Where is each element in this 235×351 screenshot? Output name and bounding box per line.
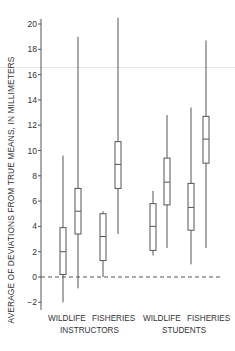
y-tick-label: 20 (28, 19, 38, 29)
y-tick-label: 6 (32, 196, 37, 206)
y-tick-label: 4 (32, 221, 37, 231)
interquartile-box (60, 228, 66, 275)
x-label-fisheries-students: FISHERIES (187, 314, 230, 323)
boxplot-chart: −202468101214161820 (0, 0, 235, 351)
x-label-wildlife-students: WILDLIFE (143, 314, 181, 323)
y-tick-label: 0 (32, 272, 37, 282)
y-axis-label: AVERAGE OF DEVIATIONS FROM TRUE MEANS, I… (6, 57, 16, 324)
group-label-students: STUDENTS (162, 326, 206, 335)
y-axis: −202468101214161820 (27, 19, 41, 310)
box-2 (75, 37, 81, 289)
y-tick-label: 10 (28, 146, 38, 156)
y-tick-label: 14 (28, 95, 38, 105)
interquartile-box (100, 214, 106, 261)
interquartile-box (203, 116, 209, 163)
y-tick-label: 18 (28, 44, 38, 54)
y-tick-label: 8 (32, 171, 37, 181)
box-4 (115, 18, 121, 234)
group-label-instructors: INSTRUCTORS (60, 326, 119, 335)
box-5 (150, 191, 156, 256)
interquartile-box (188, 183, 194, 230)
box-7 (188, 107, 194, 264)
box-series (60, 18, 209, 303)
box-1 (60, 156, 66, 303)
interquartile-box (115, 142, 121, 189)
x-label-fisheries-instructors: FISHERIES (92, 314, 135, 323)
box-6 (164, 115, 170, 248)
y-tick-label: 16 (28, 70, 38, 80)
y-tick-label: 2 (32, 247, 37, 257)
interquartile-box (150, 204, 156, 251)
x-label-wildlife-instructors: WILDLIFE (48, 314, 86, 323)
interquartile-box (164, 158, 170, 205)
y-tick-label: −2 (27, 297, 37, 307)
box-8 (203, 40, 209, 247)
y-tick-label: 12 (28, 120, 38, 130)
box-3 (100, 211, 106, 277)
